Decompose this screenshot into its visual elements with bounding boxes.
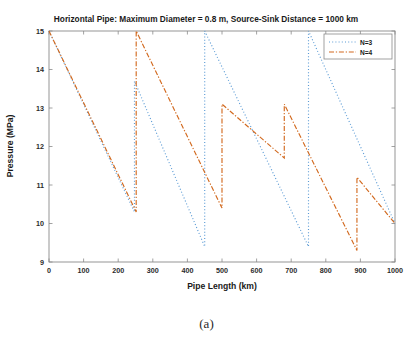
x-tick-label: 1000 [387, 266, 403, 275]
legend-label-n3: N=3 [360, 39, 373, 46]
figure-caption: (a) [0, 300, 413, 348]
y-tick-label: 14 [36, 65, 44, 74]
y-tick-label: 15 [36, 27, 44, 36]
x-tick-label: 300 [147, 266, 159, 275]
y-tick-label: 12 [36, 142, 44, 151]
y-tick-label: 13 [36, 104, 44, 113]
legend-label-n4: N=4 [360, 49, 373, 56]
y-tick-label: 11 [36, 181, 44, 190]
figure-panel: Horizontal Pipe: Maximum Diameter = 0.8 … [0, 0, 413, 300]
chart-title: Horizontal Pipe: Maximum Diameter = 0.8 … [54, 14, 358, 24]
y-tick-label: 10 [36, 219, 44, 228]
x-tick-label: 0 [47, 266, 51, 275]
x-tick-label: 700 [285, 266, 297, 275]
x-tick-label: 200 [112, 266, 124, 275]
x-axis-label: Pipe Length (km) [187, 281, 257, 291]
y-axis-label: Pressure (MPa) [5, 115, 15, 178]
chart-legend[interactable]: N=3N=4 [324, 34, 392, 59]
x-tick-label: 100 [78, 266, 90, 275]
x-tick-label: 400 [181, 266, 193, 275]
x-tick-label: 600 [251, 266, 263, 275]
legend-box[interactable] [324, 34, 392, 59]
pressure-vs-pipe-length-chart: Horizontal Pipe: Maximum Diameter = 0.8 … [0, 0, 413, 300]
x-tick-label: 500 [216, 266, 228, 275]
x-tick-label: 800 [320, 266, 332, 275]
y-tick-label: 9 [40, 258, 44, 267]
x-tick-label: 900 [354, 266, 366, 275]
